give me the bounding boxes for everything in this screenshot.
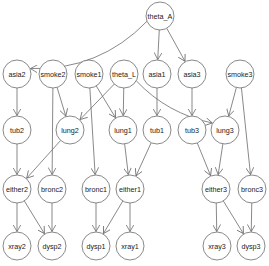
edge-theta_L-to-lung2 <box>80 84 114 119</box>
node-label: dysp1 <box>86 242 105 251</box>
node-label: bronc1 <box>85 185 107 194</box>
node-either1: either1 <box>116 175 144 203</box>
node-either3: either3 <box>202 175 230 203</box>
node-label: lung3 <box>216 126 234 135</box>
node-lung2: lung2 <box>56 116 84 144</box>
edge-bronc3-to-dysp3 <box>251 203 252 232</box>
edge-tub1-to-either1 <box>136 143 151 176</box>
node-tub2: tub2 <box>3 116 31 144</box>
node-dysp2: dysp2 <box>38 232 66 260</box>
edge-tub3-to-either3 <box>197 143 210 176</box>
node-lung1: lung1 <box>109 116 137 144</box>
node-either2: either2 <box>3 175 31 203</box>
node-asia2: asia2 <box>3 60 31 88</box>
node-label: tub3 <box>185 126 199 135</box>
edge-theta_A-to-asia3 <box>167 28 185 61</box>
edge-lung1-to-either1 <box>125 144 129 175</box>
node-xray3: xray3 <box>203 232 231 260</box>
bayesian-network-diagram: theta_Aasia2smoke2smoke1theta_Lasia1asia… <box>0 0 269 266</box>
nodes-layer: theta_Aasia2smoke2smoke1theta_Lasia1asia… <box>3 2 266 260</box>
edge-smoke3-to-lung3 <box>229 88 237 116</box>
node-label: either2 <box>6 185 28 194</box>
edge-lung3-to-either3 <box>218 144 223 175</box>
node-label: smoke1 <box>76 70 101 79</box>
node-label: theta_A <box>148 12 173 21</box>
edge-smoke3-to-bronc3 <box>241 88 250 175</box>
node-label: dysp3 <box>241 242 260 251</box>
node-label: asia1 <box>148 70 165 79</box>
node-lung3: lung3 <box>211 116 239 144</box>
node-bronc3: bronc3 <box>238 175 266 203</box>
edge-either2-to-dysp2 <box>24 201 44 234</box>
node-asia3: asia3 <box>178 60 206 88</box>
node-smoke2: smoke2 <box>39 60 67 88</box>
node-asia1: asia1 <box>143 60 171 88</box>
node-label: lung2 <box>61 126 79 135</box>
node-theta_A: theta_A <box>146 2 174 30</box>
edge-lung2-to-either2 <box>27 140 61 178</box>
node-label: either3 <box>205 185 227 194</box>
node-label: theta_L <box>112 70 136 79</box>
node-label: asia2 <box>8 70 25 79</box>
edge-smoke2-to-lung2 <box>57 87 66 116</box>
node-smoke3: smoke3 <box>226 60 254 88</box>
node-xray2: xray2 <box>3 232 31 260</box>
node-tub3: tub3 <box>178 116 206 144</box>
node-label: lung1 <box>114 126 132 135</box>
node-label: either1 <box>119 185 141 194</box>
node-label: smoke2 <box>40 70 65 79</box>
node-label: smoke3 <box>227 70 252 79</box>
edge-either3-to-xray3 <box>216 203 217 232</box>
diagram-canvas: theta_Aasia2smoke2smoke1theta_Lasia1asia… <box>0 0 269 266</box>
edge-smoke1-to-lung1 <box>96 86 115 118</box>
node-label: bronc3 <box>241 185 263 194</box>
node-label: xray2 <box>8 242 26 251</box>
node-label: tub1 <box>150 126 164 135</box>
node-bronc1: bronc1 <box>82 175 110 203</box>
edge-smoke2-to-bronc2 <box>52 88 53 175</box>
edge-either3-to-dysp3 <box>223 201 243 234</box>
node-label: asia3 <box>183 70 200 79</box>
node-label: xray3 <box>208 242 226 251</box>
edge-either1-to-dysp1 <box>103 201 122 234</box>
node-theta_L: theta_L <box>110 60 138 88</box>
node-label: bronc2 <box>41 185 63 194</box>
node-label: tub2 <box>10 126 24 135</box>
node-xray1: xray1 <box>116 232 144 260</box>
node-dysp1: dysp1 <box>82 232 110 260</box>
edge-smoke1-to-bronc1 <box>90 88 95 175</box>
node-smoke1: smoke1 <box>75 60 103 88</box>
node-tub1: tub1 <box>143 116 171 144</box>
node-label: dysp2 <box>42 242 61 251</box>
node-label: xray1 <box>121 242 139 251</box>
edge-theta_L-to-lung3 <box>136 81 212 123</box>
edge-theta_A-to-asia1 <box>158 30 160 60</box>
node-dysp3: dysp3 <box>237 232 265 260</box>
node-bronc2: bronc2 <box>38 175 66 203</box>
